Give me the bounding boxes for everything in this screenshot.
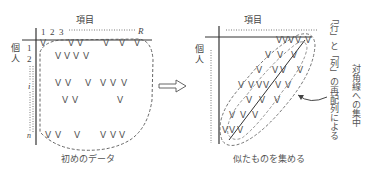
annotation-text-col2: 対角線への集中 (351, 64, 360, 127)
transform-arrow-icon (159, 80, 186, 92)
check-mark: V (274, 96, 280, 105)
check-mark: V (272, 66, 278, 75)
check-mark: V (64, 52, 70, 61)
right-column-axis-label: 項目 (244, 16, 262, 25)
right-row-axis-label-2: 人 (195, 56, 204, 65)
check-mark: V (40, 39, 46, 48)
check-mark: V (65, 79, 71, 88)
left-row-axis-label-2: 人 (11, 55, 20, 64)
left-row-end-n: n (27, 132, 31, 140)
check-mark: V (68, 39, 74, 48)
check-mark: V (277, 51, 283, 60)
right-row-axis-label-1: 個 (195, 45, 204, 54)
check-mark: V (240, 111, 246, 120)
check-mark: V (265, 51, 271, 60)
check-mark: V (222, 126, 228, 135)
check-mark: V (291, 51, 297, 60)
check-mark: V (297, 66, 303, 75)
check-mark: V (103, 39, 109, 48)
check-mark: V (121, 79, 127, 88)
annotation-arrowhead-icon (298, 95, 304, 100)
check-mark: V (55, 52, 61, 61)
check-mark: V (252, 111, 258, 120)
check-mark: V (305, 36, 311, 45)
check-mark: V (229, 126, 235, 135)
annotation-text-col1: 「行」と「列」の再配列による (329, 14, 338, 140)
left-row-num-1: 1 (27, 44, 32, 53)
right-caption: 似たものを集める (233, 152, 305, 165)
check-mark: V (275, 81, 281, 90)
left-row-num-2: 2 (27, 55, 32, 64)
check-mark: V (229, 111, 235, 120)
check-mark: V (117, 96, 123, 105)
left-column-axis-label: 項目 (76, 16, 94, 25)
check-mark: V (288, 36, 294, 45)
check-mark: V (110, 79, 116, 88)
check-mark: V (55, 79, 61, 88)
left-col-num-3: 3 (59, 28, 64, 37)
check-mark: V (45, 131, 51, 140)
left-row-axis-label-1: 個 (11, 44, 20, 53)
left-col-num-1: 1 (41, 28, 46, 37)
left-col-end-R: R (138, 27, 144, 36)
check-mark: V (110, 131, 116, 140)
left-row-mid-i: i (28, 82, 31, 91)
check-mark: V (55, 131, 61, 140)
check-mark: V (85, 79, 91, 88)
check-mark: V (134, 39, 140, 48)
check-mark: V (238, 81, 244, 90)
left-col-num-2: 2 (50, 28, 55, 37)
check-mark: V (62, 96, 68, 105)
check-mark: V (72, 96, 78, 105)
check-mark: V (100, 79, 106, 88)
check-mark: V (119, 131, 125, 140)
left-caption: 初めのデータ (61, 152, 115, 165)
check-mark: V (73, 52, 79, 61)
check-mark: V (259, 96, 265, 105)
check-mark: V (100, 131, 106, 140)
check-mark: V (263, 81, 269, 90)
check-mark: V (237, 126, 243, 135)
check-mark: V (285, 81, 291, 90)
check-mark: V (256, 81, 262, 90)
check-mark: V (119, 39, 125, 48)
check-mark: V (246, 96, 252, 105)
check-mark: V (248, 81, 254, 90)
check-mark: V (83, 52, 89, 61)
check-mark: V (74, 131, 80, 140)
check-mark: V (280, 66, 286, 75)
check-mark: V (295, 36, 301, 45)
check-mark: V (256, 66, 262, 75)
check-mark: V (77, 39, 83, 48)
